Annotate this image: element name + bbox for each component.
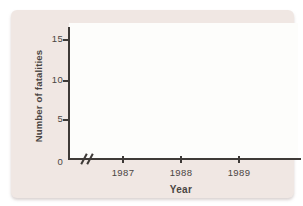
x-tick-label: 1989 <box>217 167 261 178</box>
y-tick-mark <box>63 80 69 82</box>
x-tick-mark <box>238 156 240 163</box>
y-tick-mark <box>63 119 69 121</box>
y-tick-label: 5 <box>41 113 63 124</box>
x-axis-title: Year <box>150 184 212 195</box>
y-tick-label: 10 <box>41 74 63 85</box>
y-tick-label: 0 <box>41 156 63 167</box>
x-tick-mark <box>180 156 182 163</box>
y-tick-mark <box>63 39 69 41</box>
x-tick-label: 1987 <box>101 167 145 178</box>
figure: 15 10 5 0 1987 1988 1989 Year Number of … <box>0 0 303 206</box>
x-axis-line <box>68 158 301 160</box>
chart-card: 15 10 5 0 1987 1988 1989 Year Number of … <box>11 10 294 198</box>
x-tick-label: 1988 <box>159 167 203 178</box>
y-axis-title: Number of fatalities <box>33 50 44 143</box>
plot-area <box>69 23 298 158</box>
y-tick-label: 15 <box>41 33 63 44</box>
x-tick-mark <box>122 156 124 163</box>
y-axis-line <box>68 27 70 160</box>
